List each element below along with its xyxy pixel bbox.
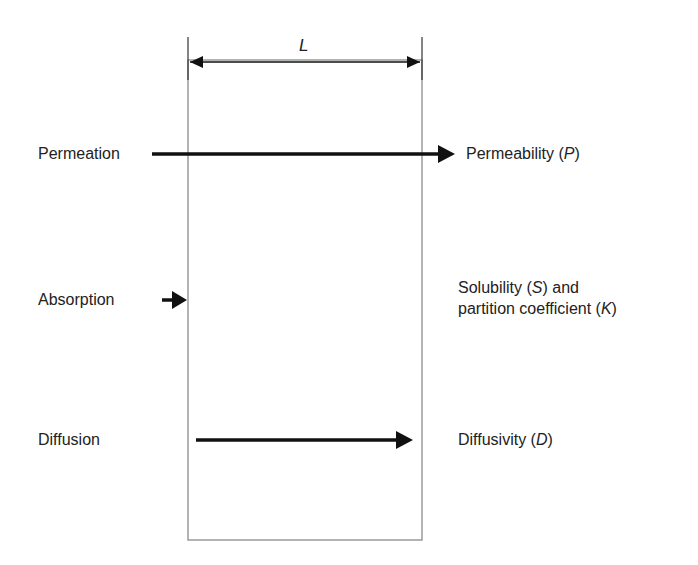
dimension-arrowhead-right-icon [407, 56, 420, 68]
diagram-canvas [0, 0, 698, 565]
diffusion-label: Diffusion [38, 430, 100, 450]
solubility-label: Solubility (S) and [458, 278, 579, 298]
absorption-arrowhead-icon [172, 291, 187, 309]
thickness-label: L [299, 36, 308, 56]
partition-coefficient-symbol: K [601, 300, 612, 317]
membrane-box [188, 60, 422, 540]
permeability-text: Permeability [466, 145, 554, 162]
partition-coefficient-text: partition coefficient [458, 300, 591, 317]
absorption-label: Absorption [38, 290, 115, 310]
permeability-symbol: P [564, 145, 575, 162]
and-text: and [552, 279, 579, 296]
permeation-arrowhead-icon [438, 145, 455, 163]
diffusivity-text: Diffusivity [458, 431, 526, 448]
partition-coefficient-label: partition coefficient (K) [458, 299, 617, 319]
dimension-arrowhead-left-icon [190, 56, 203, 68]
permeability-label: Permeability (P) [466, 144, 580, 164]
diffusivity-symbol: D [536, 431, 548, 448]
solubility-text: Solubility [458, 279, 522, 296]
diffusivity-label: Diffusivity (D) [458, 430, 553, 450]
solubility-symbol: S [532, 279, 543, 296]
permeation-label: Permeation [38, 144, 120, 164]
diffusion-arrowhead-icon [396, 431, 413, 449]
